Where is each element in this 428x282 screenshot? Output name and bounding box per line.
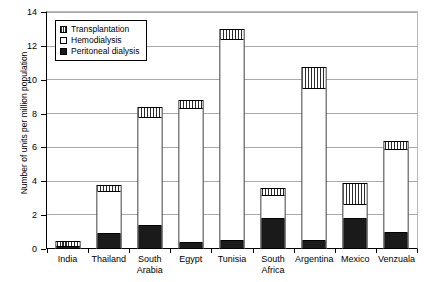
legend-item-hemodialysis: Hemodialysis <box>60 35 140 46</box>
bar-segment-transplantation <box>220 30 243 40</box>
stacked-bar[interactable] <box>55 241 80 249</box>
bar-segment-hemodialysis <box>97 190 120 234</box>
x-tick-mark <box>88 249 89 253</box>
bar-segment-hemodialysis <box>344 203 367 219</box>
bar-segment-peritoneal-dialysis <box>262 219 285 248</box>
x-tick-mark <box>417 249 418 253</box>
bar-segment-transplantation <box>56 242 79 247</box>
stacked-bar[interactable] <box>343 183 368 249</box>
bar-segment-transplantation <box>97 186 120 193</box>
y-axis-labels: 02468101214 <box>0 0 46 249</box>
x-tick-label: Venzuala <box>366 254 426 265</box>
chart-legend: Transplantation Hemodialysis Peritoneal … <box>55 20 147 61</box>
bar-segment-transplantation <box>262 189 285 196</box>
x-tick-mark <box>294 249 295 253</box>
bar-segment-hemodialysis <box>385 148 408 233</box>
x-tick-mark <box>170 249 171 253</box>
filled-square-icon <box>60 48 67 55</box>
x-tick-mark <box>211 249 212 253</box>
legend-label: Peritoneal dialysis <box>71 47 140 56</box>
y-tick-label: 14 <box>27 8 37 17</box>
bar-segment-peritoneal-dialysis <box>385 233 408 248</box>
x-tick-mark <box>253 249 254 253</box>
legend-item-transplantation: Transplantation <box>60 24 140 35</box>
x-tick-mark <box>47 249 48 253</box>
stacked-bar[interactable] <box>219 29 244 249</box>
y-tick-label: 0 <box>32 245 37 254</box>
bar-segment-peritoneal-dialysis <box>303 241 326 248</box>
bar-segment-peritoneal-dialysis <box>179 243 202 248</box>
stacked-bar[interactable] <box>302 67 327 249</box>
bar-segment-transplantation <box>385 142 408 150</box>
legend-label: Hemodialysis <box>71 36 122 45</box>
y-tick-label: 2 <box>32 211 37 220</box>
x-tick-mark <box>376 249 377 253</box>
y-tick-mark <box>41 249 46 250</box>
y-tick-label: 4 <box>32 177 37 186</box>
stacked-bar[interactable] <box>384 141 409 249</box>
bar-slot <box>253 12 294 249</box>
stacked-bar[interactable] <box>261 188 286 249</box>
bar-segment-hemodialysis <box>262 194 285 219</box>
stacked-bar[interactable] <box>96 185 121 249</box>
hatched-square-icon <box>60 26 67 33</box>
y-tick-label: 8 <box>32 109 37 118</box>
stacked-bar[interactable] <box>178 100 203 249</box>
stacked-bar[interactable] <box>137 107 162 249</box>
bar-segment-hemodialysis <box>303 87 326 241</box>
bar-slot <box>170 12 211 249</box>
legend-item-peritoneal-dialysis: Peritoneal dialysis <box>60 46 140 57</box>
x-axis-labels: IndiaThailandSouth ArabiaEgyptTunisiaSou… <box>47 254 417 282</box>
x-tick-mark <box>129 249 130 253</box>
bar-segment-hemodialysis <box>179 108 202 243</box>
bar-slot <box>211 12 252 249</box>
bar-segment-hemodialysis <box>220 38 243 241</box>
bar-segment-transplantation <box>344 184 367 205</box>
bar-segment-transplantation <box>179 101 202 109</box>
bar-slot <box>376 12 417 249</box>
legend-label: Transplantation <box>71 25 129 34</box>
x-tick-mark <box>335 249 336 253</box>
y-tick-label: 6 <box>32 143 37 152</box>
bar-segment-peritoneal-dialysis <box>138 226 161 248</box>
y-tick-label: 12 <box>27 41 37 50</box>
y-tick-label: 10 <box>27 75 37 84</box>
bar-segment-peritoneal-dialysis <box>344 219 367 248</box>
bar-segment-transplantation <box>303 68 326 89</box>
bar-slot <box>294 12 335 249</box>
bar-slot <box>335 12 376 249</box>
stacked-bar-chart: Number of units per million population 0… <box>0 0 428 282</box>
bar-segment-peritoneal-dialysis <box>97 234 120 248</box>
empty-square-icon <box>60 37 67 44</box>
bar-segment-hemodialysis <box>138 116 161 226</box>
bar-segment-transplantation <box>138 108 161 118</box>
bar-segment-peritoneal-dialysis <box>220 241 243 248</box>
